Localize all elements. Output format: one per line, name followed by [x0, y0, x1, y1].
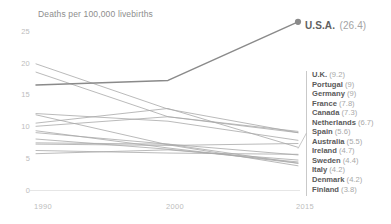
usa-series-line	[36, 22, 298, 85]
legend-item-name: Netherlands	[312, 118, 356, 127]
legend-item-name: Ireland	[312, 146, 337, 155]
legend-connector	[298, 133, 307, 149]
legend-item-value: (3.8)	[339, 185, 357, 194]
legend-item-value: (7.8)	[337, 99, 355, 108]
legend-item: Netherlands (6.7)	[312, 118, 391, 128]
legend-item-name: Spain	[312, 127, 333, 136]
legend-item: Australia (5.5)	[312, 137, 391, 147]
legend-item: Portugal (9)	[312, 80, 391, 90]
legend-item: Canada (7.3)	[312, 108, 391, 118]
legend-item-value: (4.4)	[341, 156, 359, 165]
maternal-mortality-line-chart: 0510152025 199020002015 Deaths per 100,0…	[0, 0, 391, 224]
legend-item-value: (9)	[345, 89, 356, 98]
plot-area: 0510152025 199020002015 Deaths per 100,0…	[0, 0, 391, 224]
legend-item-value: (7.3)	[339, 108, 357, 117]
legend: U.K. (9.2)Portugal (9)Germany (9)France …	[312, 70, 391, 194]
legend-item-name: Italy	[312, 165, 327, 174]
legend-item: Italy (4.2)	[312, 165, 391, 175]
legend-item: U.K. (9.2)	[312, 70, 391, 80]
legend-item: Finland (3.8)	[312, 185, 391, 195]
usa-value: (26.4)	[340, 20, 367, 31]
legend-item-name: Finland	[312, 185, 339, 194]
legend-item-name: Denmark	[312, 175, 345, 184]
legend-item-value: (5.6)	[333, 127, 351, 136]
chart-title: Deaths per 100,000 livebirths	[38, 9, 153, 19]
legend-item: France (7.8)	[312, 99, 391, 109]
legend-item-value: (9.2)	[327, 70, 345, 79]
legend-item-name: Germany	[312, 89, 345, 98]
legend-item-name: U.K.	[312, 70, 327, 79]
legend-item: Ireland (4.7)	[312, 146, 391, 156]
legend-item-value: (6.7)	[356, 118, 374, 127]
legend-item-name: Australia	[312, 137, 345, 146]
usa-endpoint-marker	[295, 19, 301, 25]
legend-item-name: Portugal	[312, 80, 343, 89]
legend-item-value: (4.2)	[345, 175, 363, 184]
usa-callout: U.S.A. (26.4)	[305, 15, 366, 33]
legend-item-value: (5.5)	[345, 137, 363, 146]
legend-item-name: Canada	[312, 108, 339, 117]
series-line	[36, 64, 298, 133]
legend-item-name: France	[312, 99, 337, 108]
legend-item: Denmark (4.2)	[312, 175, 391, 185]
legend-item-value: (9)	[343, 80, 354, 89]
legend-item-value: (4.7)	[337, 146, 355, 155]
legend-item-name: Sweden	[312, 156, 341, 165]
legend-item-value: (4.2)	[327, 165, 345, 174]
legend-item: Germany (9)	[312, 89, 391, 99]
legend-item: Spain (5.6)	[312, 127, 391, 137]
legend-item: Sweden (4.4)	[312, 156, 391, 166]
usa-label: U.S.A.	[305, 20, 335, 31]
